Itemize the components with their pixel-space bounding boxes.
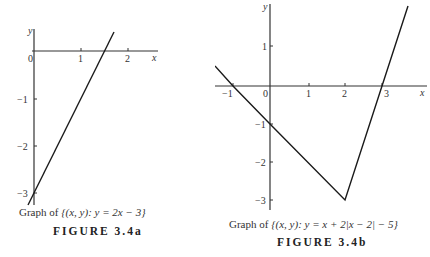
x-tick-label-neg1: −1 — [222, 88, 233, 99]
x-tick-label-0: 0 — [263, 88, 268, 99]
figure-3-4a-panel: 0 1 2 −1 −2 −3 y x Graph of {(x, y): y =… — [0, 0, 215, 257]
figure-3-4b-panel: −1 0 1 2 3 1 −1 −2 −3 y x Graph of {(x, … — [215, 0, 430, 257]
x-tick-label-1: 1 — [306, 88, 311, 99]
y-tick-label-1: 1 — [262, 41, 267, 52]
x-tick-label-0: 0 — [28, 53, 33, 64]
y-tick-label-neg1: −1 — [17, 94, 28, 105]
caption-math: {(x, y): y = x + 2|x − 2| − 5} — [271, 218, 398, 230]
figure-caption: Graph of {(x, y): y = x + 2|x − 2| − 5} — [229, 218, 398, 230]
x-tick-label-2: 2 — [125, 53, 130, 64]
caption-prefix: Graph of — [229, 218, 271, 230]
y-tick-label-neg2: −2 — [255, 157, 266, 168]
figure-caption: Graph of {(x, y): y = 2x − 3} — [19, 206, 146, 218]
y-tick-label-neg3: −3 — [17, 188, 28, 199]
figure-3-4a-plot: 0 1 2 −1 −2 −3 y x — [0, 0, 215, 257]
x-axis-label: x — [419, 87, 425, 98]
y-tick-label-neg2: −2 — [17, 141, 28, 152]
function-line — [28, 32, 114, 205]
x-axis-label: x — [151, 52, 157, 63]
function-line — [215, 6, 408, 200]
y-tick-label-neg3: −3 — [255, 195, 266, 206]
x-tick-label-3: 3 — [384, 88, 389, 99]
figure-label: FIGURE 3.4a — [53, 225, 143, 237]
y-axis-label: y — [27, 25, 33, 36]
y-tick-label-neg1: −1 — [255, 119, 266, 130]
y-axis-label: y — [262, 1, 268, 12]
x-tick-label-1: 1 — [78, 53, 83, 64]
x-tick-label-2: 2 — [342, 88, 347, 99]
caption-prefix: Graph of — [19, 206, 61, 218]
caption-math: {(x, y): y = 2x − 3} — [61, 206, 145, 218]
figure-label: FIGURE 3.4b — [277, 236, 367, 248]
